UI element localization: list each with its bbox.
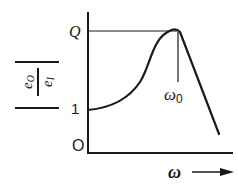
numerator-subscript: O — [25, 75, 36, 82]
y-axis-fraction: eO eI — [18, 58, 58, 106]
y-axis-denominator: eI — [40, 62, 56, 102]
tick-label-one: 1 — [71, 101, 79, 116]
arrow-right-icon — [220, 168, 234, 176]
y-axis-label: eO eI — [14, 62, 62, 102]
denominator-subscript: I — [45, 77, 56, 80]
tick-label-origin: O — [72, 138, 84, 154]
denominator-symbol: e — [39, 80, 55, 87]
resonance-diagram: eO eI Q 1 O ω0 ω — [0, 0, 238, 189]
abs-bar-top — [15, 61, 59, 63]
peak-frequency-label: ω0 — [164, 86, 183, 105]
numerator-symbol: e — [19, 82, 35, 89]
abs-bar-bottom — [15, 107, 59, 109]
omega-subscript: 0 — [176, 92, 183, 106]
x-axis-label: ω — [168, 163, 181, 181]
y-axis-numerator: eO — [20, 62, 36, 102]
resonance-curve — [88, 29, 219, 134]
tick-label-q: Q — [69, 24, 81, 40]
omega-symbol: ω — [164, 85, 176, 104]
